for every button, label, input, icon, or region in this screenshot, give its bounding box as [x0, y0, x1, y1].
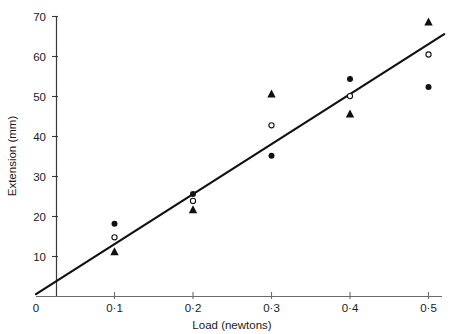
y-tick-label-20: 20: [33, 211, 46, 223]
data-point-filled-circle: [112, 221, 118, 227]
x-axis-ticks: [115, 292, 429, 299]
y-axis-title: Extension (mm): [6, 116, 18, 197]
x-tick-label-0-1: 0·1: [106, 302, 123, 314]
y-tick-label-60: 60: [33, 51, 46, 63]
data-markers-layer: [110, 18, 432, 256]
plot-canvas: 70 60 50 40 30 20 10 0 0·1 0·2 0·3 0·4 0…: [0, 0, 451, 334]
origin-label-0: 0: [33, 302, 39, 314]
y-tick-label-10: 10: [33, 251, 46, 263]
best-fit-line: [36, 34, 444, 294]
y-tick-label-70: 70: [33, 11, 46, 23]
x-tick-label-0-2: 0·2: [185, 302, 202, 314]
y-tick-label-40: 40: [33, 131, 46, 143]
scatter-chart: 70 60 50 40 30 20 10 0 0·1 0·2 0·3 0·4 0…: [0, 0, 451, 334]
x-axis-title: Load (newtons): [192, 319, 271, 331]
data-point-open-circle: [190, 198, 195, 203]
data-point-open-circle: [112, 235, 117, 240]
data-point-open-circle: [426, 52, 431, 57]
data-point-filled-triangle: [189, 205, 197, 213]
data-point-filled-triangle: [110, 247, 118, 255]
data-point-filled-circle: [426, 84, 432, 90]
data-point-open-circle: [269, 123, 274, 128]
y-tick-label-50: 50: [33, 91, 46, 103]
y-tick-label-30: 30: [33, 171, 46, 183]
x-tick-label-0-4: 0·4: [342, 302, 359, 314]
data-point-filled-circle: [190, 191, 196, 197]
data-point-filled-triangle: [346, 110, 354, 118]
data-point-open-circle: [347, 94, 352, 99]
data-point-filled-circle: [269, 153, 275, 159]
data-point-filled-triangle: [267, 90, 275, 98]
x-tick-label-0-3: 0·3: [263, 302, 280, 314]
data-point-filled-circle: [347, 76, 353, 82]
data-point-filled-triangle: [424, 18, 432, 26]
x-tick-label-0-5: 0·5: [420, 302, 437, 314]
